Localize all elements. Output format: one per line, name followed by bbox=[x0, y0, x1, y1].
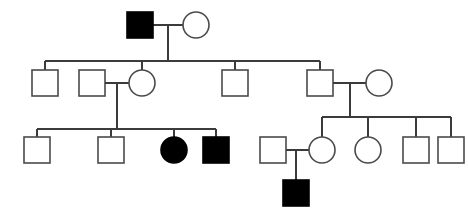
sibship-bar-generation-3-right bbox=[322, 117, 451, 137]
individual-III-9-unaffected-male[interactable] bbox=[438, 137, 464, 163]
individual-III-6-unaffected-female[interactable] bbox=[309, 137, 335, 163]
pedigree-canvas bbox=[0, 0, 468, 220]
individual-II-6-unaffected-female-married-in[interactable] bbox=[366, 70, 392, 96]
individual-II-4-unaffected-male[interactable] bbox=[222, 70, 248, 96]
individual-III-1-unaffected-male[interactable] bbox=[24, 137, 50, 163]
individual-II-3-unaffected-female[interactable] bbox=[129, 70, 155, 96]
generation-4-group bbox=[283, 180, 309, 206]
individual-III-8-unaffected-male[interactable] bbox=[403, 137, 429, 163]
generation-1-group bbox=[127, 12, 209, 61]
sibship-bar-generation-2 bbox=[45, 61, 320, 70]
individual-II-5-unaffected-male[interactable] bbox=[307, 70, 333, 96]
individual-IV-1-affected-male[interactable] bbox=[283, 180, 309, 206]
individual-III-3-affected-female[interactable] bbox=[161, 137, 187, 163]
generation-2-group bbox=[32, 70, 392, 129]
individual-II-1-unaffected-male[interactable] bbox=[32, 70, 58, 96]
individual-III-4-affected-male[interactable] bbox=[203, 137, 229, 163]
sibship-bar-generation-3-left bbox=[37, 129, 216, 137]
individual-III-2-unaffected-male[interactable] bbox=[98, 137, 124, 163]
individual-I-2-unaffected-female[interactable] bbox=[183, 12, 209, 38]
individual-I-1-affected-male[interactable] bbox=[127, 12, 153, 38]
pedigree-chart bbox=[0, 0, 468, 220]
individual-II-2-unaffected-male-married-in[interactable] bbox=[79, 70, 105, 96]
individual-III-7-unaffected-female[interactable] bbox=[355, 137, 381, 163]
individual-III-5-unaffected-male-married-in[interactable] bbox=[260, 137, 286, 163]
generation-3-group bbox=[24, 137, 464, 180]
